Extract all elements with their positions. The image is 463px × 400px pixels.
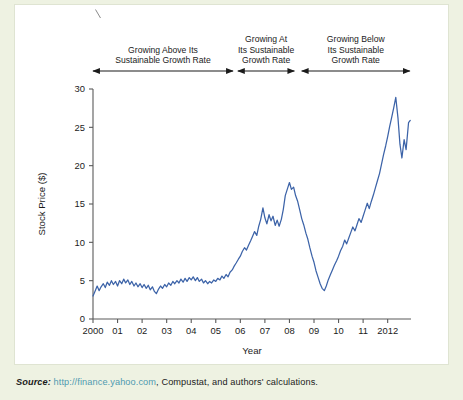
source-label: Source: bbox=[16, 377, 51, 387]
x-axis-ticks: 200001020304050607080910112012 bbox=[83, 319, 399, 336]
stock-price-series-line bbox=[93, 97, 410, 296]
figure-panel: Growing Above ItsSustainable Growth Rate… bbox=[14, 4, 449, 365]
source-rest: , Compustat, and authors' calculations. bbox=[156, 377, 318, 387]
x-tick-label: 07 bbox=[260, 325, 270, 336]
y-tick-label: 10 bbox=[75, 237, 85, 248]
x-tick-label: 05 bbox=[211, 325, 221, 336]
band-below-label: Its Sustainable bbox=[328, 45, 385, 55]
band-above-label: Growing Above Its bbox=[128, 45, 198, 55]
y-tick-label: 15 bbox=[75, 198, 85, 209]
y-tick-label: 25 bbox=[75, 122, 85, 133]
source-url[interactable]: http://finance.yahoo.com bbox=[54, 377, 157, 387]
x-tick-label: 04 bbox=[186, 325, 196, 336]
x-tick-label: 03 bbox=[161, 325, 171, 336]
series-group bbox=[93, 97, 410, 296]
x-tick-label: 10 bbox=[333, 325, 343, 336]
x-tick-label: 2012 bbox=[377, 325, 398, 336]
y-tick-label: 20 bbox=[75, 160, 85, 171]
x-tick-label: 08 bbox=[284, 325, 294, 336]
x-tick-label: 02 bbox=[137, 325, 147, 336]
stock-price-line-chart: Growing Above ItsSustainable Growth Rate… bbox=[15, 5, 448, 364]
chart-axes: 051015202530 200001020304050607080910112… bbox=[75, 83, 411, 336]
x-tick-label: 11 bbox=[358, 325, 368, 336]
band-below-label: Growth Rate bbox=[332, 55, 380, 65]
band-below-label: Growing Below bbox=[327, 34, 386, 44]
growth-phase-annotations: Growing Above ItsSustainable Growth Rate… bbox=[93, 34, 410, 71]
source-caption: Source: http://finance.yahoo.com, Compus… bbox=[16, 377, 318, 387]
band-at-label: Its Sustainable bbox=[238, 45, 295, 55]
band-at-label: Growing At bbox=[245, 34, 288, 44]
band-above-label: Sustainable Growth Rate bbox=[115, 55, 211, 65]
x-tick-label: 01 bbox=[112, 325, 122, 336]
y-axis-ticks: 051015202530 bbox=[75, 83, 93, 324]
x-tick-label: 2000 bbox=[83, 325, 104, 336]
band-at-label: Growth Rate bbox=[242, 55, 290, 65]
x-tick-label: 06 bbox=[235, 325, 245, 336]
y-axis-title: Stock Price ($) bbox=[36, 173, 47, 236]
y-tick-label: 30 bbox=[75, 83, 85, 94]
y-tick-label: 5 bbox=[80, 275, 85, 286]
y-tick-label: 0 bbox=[80, 313, 85, 324]
x-tick-label: 09 bbox=[309, 325, 319, 336]
x-axis-title: Year bbox=[242, 345, 262, 356]
